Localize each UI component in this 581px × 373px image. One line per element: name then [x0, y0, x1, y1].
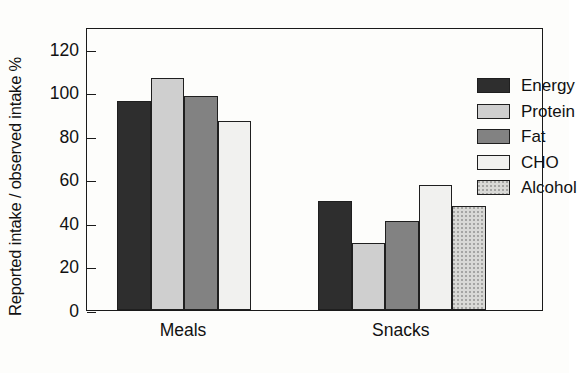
- y-axis-tick: [87, 268, 96, 269]
- legend-item-alcohol: Alcohol: [477, 175, 581, 201]
- legend-item-energy: Energy: [477, 73, 581, 99]
- y-axis-tick-label: 0: [25, 303, 79, 321]
- legend-item-cho: CHO: [477, 150, 581, 176]
- y-axis-tick: [87, 312, 96, 313]
- x-axis-label-snacks: Snacks: [372, 320, 429, 341]
- legend-swatch-cho: [477, 155, 510, 170]
- bar-protein-snacks: [352, 243, 386, 310]
- bar-fat-meals: [184, 96, 218, 310]
- bar-energy-snacks: [318, 201, 352, 310]
- bar-fat-snacks: [385, 221, 419, 310]
- bar-protein-meals: [151, 78, 185, 310]
- legend-swatch-fat: [477, 129, 510, 144]
- y-axis-tick: [87, 138, 96, 139]
- legend-label-cho: CHO: [521, 154, 559, 171]
- y-axis-tick: [87, 51, 96, 52]
- bar-cho-snacks: [419, 185, 453, 310]
- bar-energy-meals: [117, 101, 151, 310]
- legend-label-fat: Fat: [521, 128, 546, 145]
- y-axis-tick-label: 20: [25, 260, 79, 278]
- y-axis-tick-label: 60: [25, 173, 79, 191]
- y-axis-tick-label: 80: [25, 129, 79, 147]
- y-axis-tick: [87, 225, 96, 226]
- legend-label-protein: Protein: [521, 103, 575, 120]
- legend-label-energy: Energy: [521, 77, 575, 94]
- x-axis-label-meals: Meals: [160, 320, 207, 341]
- y-axis-tick: [87, 94, 96, 95]
- y-axis-tick-label: 120: [25, 42, 79, 60]
- chart-legend: EnergyProteinFatCHOAlcohol: [477, 73, 581, 201]
- plot-area: 020406080100120 EnergyProteinFatCHOAlcoh…: [86, 28, 543, 311]
- legend-swatch-protein: [477, 104, 510, 119]
- legend-item-fat: Fat: [477, 124, 581, 150]
- y-axis-tick-label: 100: [25, 86, 79, 104]
- bar-alcohol-snacks: [452, 206, 486, 310]
- y-axis-tick: [87, 181, 96, 182]
- legend-swatch-alcohol: [477, 180, 510, 195]
- legend-label-alcohol: Alcohol: [521, 179, 577, 196]
- y-axis-tick-label: 40: [25, 216, 79, 234]
- legend-swatch-energy: [477, 78, 510, 93]
- bar-cho-meals: [218, 121, 252, 310]
- legend-item-protein: Protein: [477, 99, 581, 125]
